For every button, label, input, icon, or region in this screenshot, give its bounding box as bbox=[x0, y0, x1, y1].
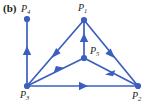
node-label-P4: P4 bbox=[21, 4, 30, 14]
figure-panel-b: (b) bbox=[0, 0, 150, 106]
arrowhead-P3-P2 bbox=[79, 82, 88, 90]
edge-P3-P5 bbox=[27, 58, 84, 86]
node-label-P5: P5 bbox=[90, 46, 99, 56]
arrowhead-P3-P4 bbox=[23, 46, 31, 55]
graph-edges bbox=[27, 19, 138, 86]
arrowhead-P1-P2 bbox=[105, 49, 115, 59]
node-P5[interactable] bbox=[81, 55, 87, 61]
node-P2[interactable] bbox=[135, 83, 141, 89]
node-label-P3: P3 bbox=[20, 90, 29, 100]
node-P1[interactable] bbox=[81, 17, 87, 23]
node-label-P1: P1 bbox=[78, 3, 87, 13]
node-P4[interactable] bbox=[24, 16, 30, 22]
arrowhead-P5-P1 bbox=[80, 33, 88, 42]
node-label-P2: P2 bbox=[132, 91, 141, 101]
